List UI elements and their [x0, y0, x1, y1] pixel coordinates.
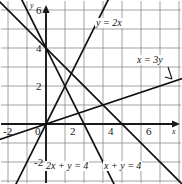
y-axis: [42, 5, 49, 183]
x-tick-label-6: 6: [146, 126, 152, 137]
annotation-x-plus-y-equals-4: x + y = 4: [103, 161, 142, 171]
annotation-y-equals-2x: y = 2x: [95, 18, 123, 28]
y-tick-label-2: 2: [36, 81, 42, 92]
x-tick-label-2: 2: [70, 126, 76, 137]
x-equals-3y-leader-line: [165, 67, 172, 79]
y-tick-label-minus-2: -2: [34, 157, 43, 168]
x-tick-label-minus-2: -2: [3, 126, 12, 137]
x-tick-label-4: 4: [108, 126, 114, 137]
y-axis-label: y: [30, 2, 34, 10]
annotation-2x-plus-y-equals-4: 2x + y = 4: [45, 161, 89, 171]
annotation-x-equals-3y: x = 3y: [136, 55, 164, 65]
y-tick-label-4: 4: [36, 43, 42, 54]
y-tick-label-6: 6: [36, 5, 42, 16]
x-axis-label: x: [172, 128, 176, 136]
plot-canvas: [0, 0, 182, 184]
origin-label-0: 0: [35, 126, 41, 137]
x-axis: [1, 120, 180, 127]
coordinate-graph-figure: y x 6 4 2 -2 0 -2 2 4 6 y = 2x x = 3y 2x…: [0, 0, 182, 184]
